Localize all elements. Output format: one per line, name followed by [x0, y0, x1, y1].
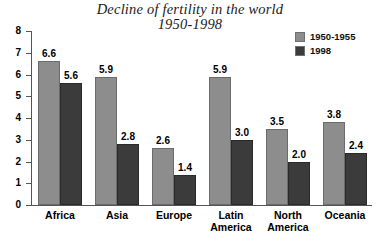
category-label: Africa [30, 209, 90, 221]
category-label: Asia [87, 209, 147, 221]
bar [288, 162, 310, 206]
bar-group: 6.65.6 [38, 31, 82, 205]
chart-title-line-1: Decline of fertility in the world [97, 1, 284, 17]
bar-group: 5.93.0 [209, 31, 253, 205]
plot-area: 6.65.65.92.82.61.45.93.03.52.03.82.4 [32, 31, 372, 205]
bar-value-label: 2.6 [148, 136, 178, 146]
fertility-bar-chart: Decline of fertility in the world 1950-1… [0, 0, 379, 244]
bar-value-label: 1.4 [170, 163, 200, 173]
bar [60, 83, 82, 205]
bar [231, 140, 253, 205]
bar-group: 3.52.0 [266, 31, 310, 205]
bar-value-label: 3.0 [227, 128, 257, 138]
bar-value-label: 6.6 [34, 49, 64, 59]
bar [266, 129, 288, 205]
y-axis-tick-label: 6 [0, 70, 21, 80]
bar [209, 77, 231, 205]
bar-value-label: 2.8 [113, 132, 143, 142]
bar [38, 61, 60, 205]
chart-title-line-2: 1950-1998 [60, 17, 320, 32]
bar [174, 175, 196, 205]
bar [152, 148, 174, 205]
chart-title: Decline of fertility in the world 1950-1… [60, 2, 320, 32]
bar-value-label: 5.6 [56, 71, 86, 81]
bar [323, 122, 345, 205]
category-label-line: America [258, 221, 318, 233]
category-label-line: Europe [144, 209, 204, 221]
bar-value-label: 3.8 [319, 110, 349, 120]
y-axis-tick-label: 5 [0, 91, 21, 101]
category-label: LatinAmerica [201, 209, 261, 233]
category-label-line: North [258, 209, 318, 221]
bar-value-label: 2.4 [341, 141, 371, 151]
y-axis-tick-label: 4 [0, 113, 21, 123]
bar [345, 153, 367, 205]
bar-value-label: 3.5 [262, 117, 292, 127]
y-axis-tick-label: 2 [0, 157, 21, 167]
y-axis-tick-label: 3 [0, 135, 21, 145]
category-label-line: Africa [30, 209, 90, 221]
category-label-line: America [201, 221, 261, 233]
bar-group: 5.92.8 [95, 31, 139, 205]
category-label-line: Oceania [315, 209, 375, 221]
y-axis-tick-label: 0 [0, 200, 21, 210]
bar-group: 2.61.4 [152, 31, 196, 205]
bar-value-label: 5.9 [205, 65, 235, 75]
bar-value-label: 5.9 [91, 65, 121, 75]
category-label: Europe [144, 209, 204, 221]
category-label-line: Latin [201, 209, 261, 221]
y-axis-tick [26, 205, 32, 206]
y-axis-tick-label: 7 [0, 48, 21, 58]
bar [117, 144, 139, 205]
y-axis-tick-label: 1 [0, 178, 21, 188]
y-axis-tick-label: 8 [0, 26, 21, 36]
x-axis-line [31, 205, 372, 206]
bar-value-label: 2.0 [284, 150, 314, 160]
category-label-line: Asia [87, 209, 147, 221]
category-label: Oceania [315, 209, 375, 221]
bar-group: 3.82.4 [323, 31, 367, 205]
category-label: NorthAmerica [258, 209, 318, 233]
